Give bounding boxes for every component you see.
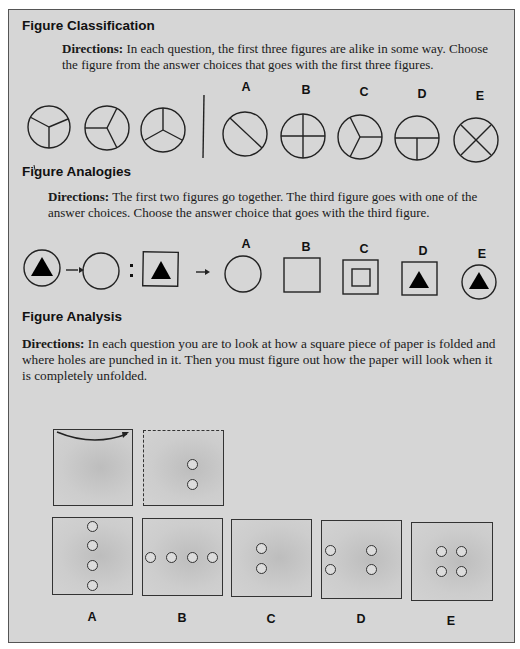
directions-label: Directions: (22, 336, 85, 351)
choice-c-figure (338, 115, 382, 159)
choice-b-figure (281, 114, 325, 158)
choice-label-c: C (261, 612, 281, 626)
directions-text: The first two figures go together. The t… (48, 189, 477, 220)
hole-icon (145, 552, 156, 563)
stimulus-circle-1 (28, 106, 70, 148)
hole-icon (187, 479, 198, 490)
choice-d-figure (395, 116, 439, 160)
section-title-analysis: Figure Analysis (22, 309, 122, 324)
choice-label-b: B (172, 611, 192, 625)
choice-e-circle-with-triangle (462, 265, 496, 299)
directions-label: Directions: (48, 189, 109, 204)
directions-label: Directions: (62, 41, 123, 56)
choice-e-figure (454, 118, 498, 162)
hole-icon (207, 552, 218, 563)
choice-label-a: A (82, 610, 102, 624)
stimulus-circle-3 (141, 108, 185, 152)
choice-b-empty-square (284, 258, 320, 292)
stimulus-empty-circle (83, 253, 119, 289)
hole-icon (87, 521, 98, 532)
directions-analogies: Directions: The first two figures go tog… (48, 189, 498, 221)
hole-icon (87, 580, 98, 591)
divider-line (203, 95, 204, 158)
fold-arrow-icon (53, 429, 133, 459)
directions-text: In each question, the first three figure… (62, 41, 488, 72)
hole-icon (87, 560, 98, 571)
choice-a-figure (223, 112, 267, 156)
arrow-icon (66, 267, 84, 273)
choice-label-d: D (351, 612, 371, 626)
colon-icon (130, 264, 133, 277)
directions-analysis: Directions: In each question you are to … (22, 336, 502, 384)
hole-icon (325, 545, 336, 556)
directions-classification: Directions: In each question, the first … (62, 41, 502, 73)
section-title-classification: Figure Classification (22, 18, 155, 33)
hole-icon (325, 564, 336, 575)
hole-icon (187, 552, 198, 563)
hole-icon (366, 545, 377, 556)
choice-label-a: A (236, 237, 256, 251)
stimulus-circle-with-triangle (24, 250, 60, 286)
choice-c-square-in-square (343, 260, 378, 294)
stimulus-square-with-triangle (143, 252, 179, 287)
choice-d-square-with-triangle (402, 262, 437, 295)
choice-e-paper (411, 522, 493, 601)
hole-icon (456, 546, 467, 557)
section-title-analogies: Figure Analogies (22, 164, 131, 179)
choice-d-paper (321, 520, 402, 599)
hole-icon (87, 540, 98, 551)
hole-icon (456, 566, 467, 577)
hole-icon (166, 552, 177, 563)
hole-icon (436, 566, 447, 577)
hole-icon (187, 459, 198, 470)
directions-text: In each question you are to look at how … (22, 336, 496, 383)
choice-label-e: E (441, 614, 461, 628)
stimulus-circle-2 (85, 106, 129, 150)
hole-icon (366, 564, 377, 575)
hole-icon (256, 563, 267, 574)
hole-icon (256, 543, 267, 554)
arrow-icon (196, 269, 210, 275)
choice-c-paper (231, 519, 312, 597)
choice-a-empty-circle (225, 256, 261, 292)
hole-icon (436, 546, 447, 557)
folded-paper-stimulus (143, 430, 224, 506)
